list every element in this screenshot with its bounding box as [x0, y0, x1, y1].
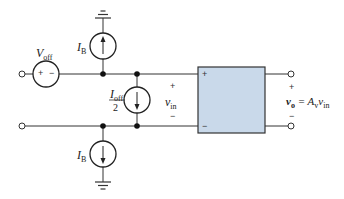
node: [100, 71, 106, 77]
out-plus-sign: +: [289, 83, 294, 92]
node: [134, 71, 140, 77]
input-terminal-bottom: [19, 123, 25, 129]
current-source-ib-top: [90, 33, 116, 59]
voff-minus-sign: −: [49, 69, 54, 78]
label-ioff-denominator: 2: [113, 103, 118, 113]
label-vin: vin: [165, 96, 177, 111]
output-terminal-bottom: [288, 123, 294, 129]
current-source-ioff: [124, 87, 150, 113]
box-plus-sign: +: [202, 70, 207, 79]
out-minus-sign: −: [289, 112, 294, 121]
ground-bottom: [95, 182, 111, 189]
label-vout: vo = Avvin: [286, 96, 329, 110]
label-ib-top: IB: [77, 41, 86, 56]
node: [100, 123, 106, 129]
input-terminal-top: [19, 71, 25, 77]
amplifier-block: [198, 67, 265, 133]
current-source-ib-bottom: [90, 141, 116, 167]
vin-plus-sign: +: [170, 82, 175, 91]
voff-plus-sign: +: [38, 69, 43, 78]
voltage-source-voff: [33, 61, 59, 87]
ground-top: [95, 11, 111, 18]
label-voff: Voff: [36, 47, 53, 62]
vin-minus-sign: −: [170, 112, 175, 121]
box-minus-sign: −: [202, 122, 207, 131]
label-ib-bottom: IB: [77, 149, 86, 164]
node: [134, 123, 140, 129]
output-terminal-top: [288, 71, 294, 77]
circuit-diagram: + − Voff IB IB Ioff 2 + vin − + − + vo =…: [0, 0, 344, 199]
